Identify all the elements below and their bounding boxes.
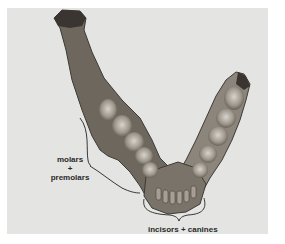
label-molars: molars [50, 155, 90, 164]
label-incisors-canines: incisors + canines [148, 225, 214, 234]
label-premolars: premolars [50, 173, 90, 182]
label-plus: + [50, 164, 90, 173]
label-molars-premolars: molars + premolars [50, 155, 90, 182]
fossil-jaw-photo [7, 8, 268, 234]
jaw-illustration [7, 8, 268, 234]
